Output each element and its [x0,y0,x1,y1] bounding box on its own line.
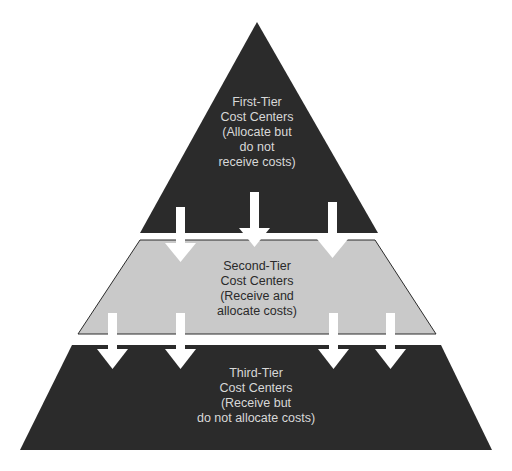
first-tier-label: First-Tier Cost Centers (Allocate but do… [197,95,317,170]
first-tier-desc-2: do not [197,140,317,155]
second-tier-desc-2: allocate costs) [197,304,317,319]
first-tier-subtitle: Cost Centers [197,110,317,125]
third-tier-label: Third-Tier Cost Centers (Receive but do … [186,366,326,426]
third-tier-subtitle: Cost Centers [186,381,326,396]
third-tier-title: Third-Tier [186,366,326,381]
second-tier-desc-1: (Receive and [197,289,317,304]
third-tier-desc-2: do not allocate costs) [186,411,326,426]
first-tier-title: First-Tier [197,95,317,110]
second-tier-title: Second-Tier [197,259,317,274]
first-tier-desc-3: receive costs) [197,155,317,170]
third-tier-desc-1: (Receive but [186,396,326,411]
second-tier-subtitle: Cost Centers [197,274,317,289]
first-tier-desc-1: (Allocate but [197,125,317,140]
second-tier-label: Second-Tier Cost Centers (Receive and al… [197,259,317,319]
